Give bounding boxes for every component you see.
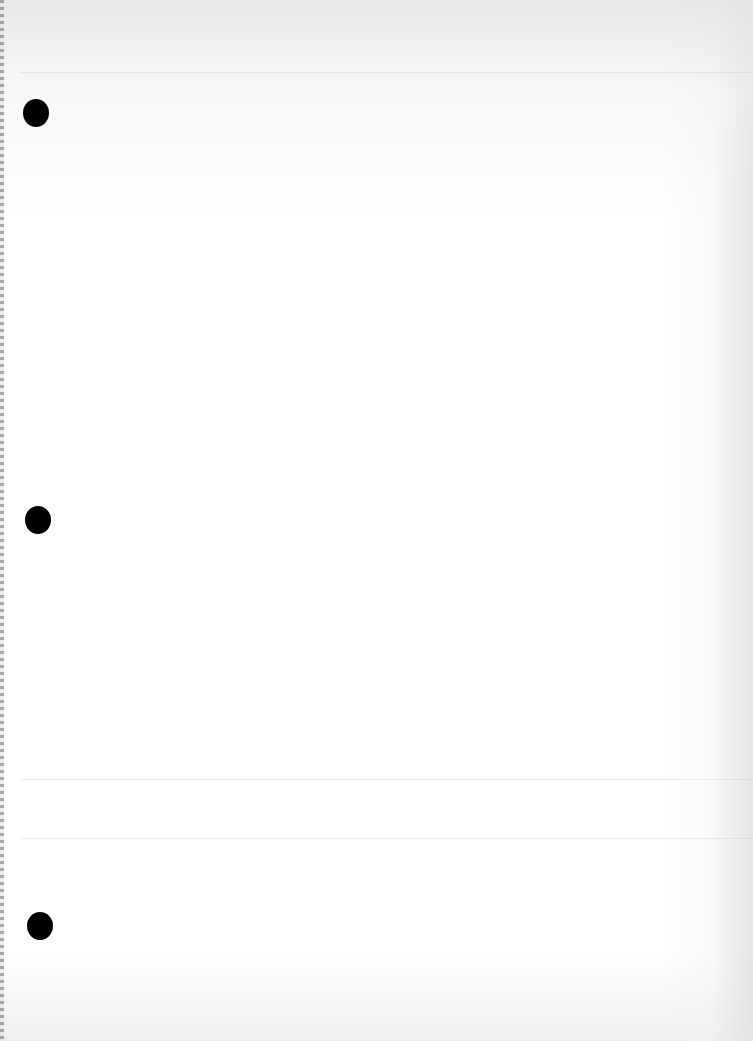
faint-scan-line — [20, 72, 753, 73]
perforated-left-edge — [0, 0, 4, 1041]
faint-scan-line — [20, 838, 753, 839]
punch-hole — [25, 506, 51, 534]
faint-scan-line — [20, 779, 753, 780]
punch-hole — [23, 99, 49, 127]
blank-paper-sheet — [0, 0, 753, 1041]
punch-hole — [27, 912, 53, 940]
